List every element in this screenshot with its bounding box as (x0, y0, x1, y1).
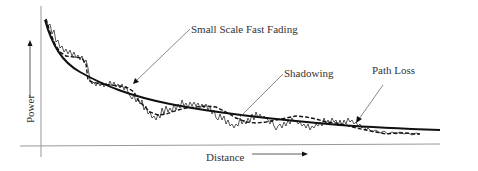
x-axis-label-group: Distance (206, 151, 308, 163)
y-axis-label-group: Power (24, 40, 36, 123)
x-axis-label: Distance (206, 151, 245, 163)
fading-diagram: Power Distance Small Scale Fast Fading S… (0, 0, 478, 171)
shadowing-annotation: Shadowing (240, 67, 334, 117)
path-loss-annotation: Path Loss (356, 64, 415, 123)
shadowing-pointer-line (240, 74, 283, 117)
x-axis (20, 144, 440, 146)
path-loss-label: Path Loss (372, 64, 415, 76)
small-scale-label: Small Scale Fast Fading (191, 23, 298, 35)
path-loss-arrow-icon (356, 116, 362, 123)
y-axis-arrow-icon (28, 40, 33, 46)
shadowing-curve (46, 19, 420, 134)
x-axis-arrow-icon (302, 152, 308, 157)
fast-fading-curve (46, 19, 420, 135)
small-scale-annotation: Small Scale Fast Fading (133, 23, 298, 84)
y-axis-label: Power (24, 95, 36, 123)
small-scale-pointer-line (136, 29, 190, 81)
shadowing-label: Shadowing (284, 67, 334, 79)
path-loss-pointer-line (359, 85, 383, 119)
